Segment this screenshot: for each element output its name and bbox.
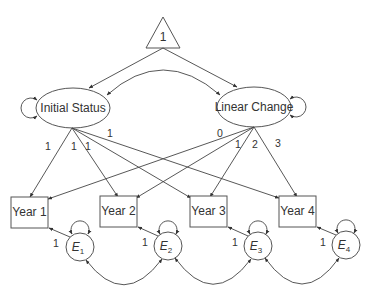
loading-is-year1 xyxy=(30,128,72,197)
error-e2: E2 xyxy=(154,232,182,260)
path-e4-year4 xyxy=(317,227,336,235)
loading-label-lc-3: 2 xyxy=(252,138,258,150)
path-e3-year3 xyxy=(228,227,248,236)
covariance-e2-e3 xyxy=(175,258,251,284)
variance-loop-e1 xyxy=(71,221,89,234)
error-e4: E4 xyxy=(332,231,360,259)
year3-label: Year 3 xyxy=(191,204,226,218)
loading-label-is-2: 1 xyxy=(71,140,77,152)
error-loading-label-4: 1 xyxy=(320,236,326,248)
observed-year4: Year 4 xyxy=(279,196,316,227)
error-e1: E1 xyxy=(66,233,94,261)
year4-label: Year 4 xyxy=(280,204,315,218)
growth-curve-diagram: 1 Initial Status Linear Change 1 1 1 1 0… xyxy=(0,0,370,300)
error-loading-label-1: 1 xyxy=(53,237,59,249)
path-constant-to-linear-change xyxy=(163,48,237,87)
path-e2-year2 xyxy=(138,227,158,236)
latent-linear-change: Linear Change xyxy=(215,87,294,127)
loading-label-lc-4: 3 xyxy=(275,137,281,149)
loading-label-is-1: 1 xyxy=(45,140,51,152)
loading-label-is-4: 1 xyxy=(107,127,113,139)
path-constant-to-initial-status xyxy=(89,48,163,88)
constant-label: 1 xyxy=(160,30,167,44)
covariance-latent-factors xyxy=(107,70,220,95)
latent-initial-status: Initial Status xyxy=(36,88,110,128)
error-loading-label-2: 1 xyxy=(142,236,148,248)
loading-is-year4 xyxy=(72,128,279,198)
observed-year2: Year 2 xyxy=(100,196,137,227)
year1-label: Year 1 xyxy=(12,205,47,219)
covariance-e1-e2 xyxy=(86,259,162,285)
error-e3: E3 xyxy=(244,232,272,260)
year2-label: Year 2 xyxy=(101,204,136,218)
constant-node: 1 xyxy=(146,17,180,48)
covariance-e3-e4 xyxy=(265,258,339,284)
linear-change-label: Linear Change xyxy=(215,100,294,114)
variance-loop-initial-status xyxy=(21,98,37,118)
loading-label-lc-1: 0 xyxy=(217,127,223,139)
error-loading-label-3: 1 xyxy=(232,236,238,248)
loading-is-year3 xyxy=(72,128,191,198)
path-e1-year1 xyxy=(49,228,70,237)
initial-status-label: Initial Status xyxy=(40,101,105,115)
loading-label-is-3: 1 xyxy=(85,140,91,152)
observed-year1: Year 1 xyxy=(11,197,48,228)
loading-label-lc-2: 1 xyxy=(235,138,241,150)
observed-year3: Year 3 xyxy=(190,196,227,227)
